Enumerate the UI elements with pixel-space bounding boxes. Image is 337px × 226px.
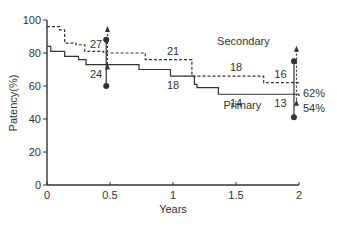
at-risk-count: 24 [90, 68, 102, 80]
at-risk-count: 21 [167, 45, 179, 57]
chart-canvas: 00.511.52020406080100 2721181662%2418141… [0, 0, 337, 226]
series-annotation: Secondary [217, 35, 270, 47]
dot-icon [291, 58, 297, 64]
series-annotation: Primary [223, 99, 261, 111]
chart-labels: 2721181662%2418141354%SecondaryPrimary [90, 35, 325, 114]
y-tick-label: 80 [29, 47, 41, 59]
arrow-up-icon [105, 26, 110, 32]
y-axis-label: Patency(%) [7, 75, 19, 132]
end-percentage-label: 62% [303, 87, 325, 99]
arrow-up-icon [294, 100, 299, 106]
x-axis-label: Years [159, 203, 187, 215]
dot-icon [103, 37, 109, 43]
y-tick-label: 40 [29, 113, 41, 125]
dot-icon [103, 83, 109, 89]
x-tick-label: 0 [44, 189, 50, 201]
end-percentage-label: 54% [303, 102, 325, 114]
y-tick-label: 0 [35, 179, 41, 191]
y-tick-label: 60 [29, 80, 41, 92]
x-tick-label: 0.5 [102, 189, 117, 201]
at-risk-count: 16 [274, 68, 286, 80]
x-tick-label: 1.5 [228, 189, 243, 201]
patency-chart: 00.511.52020406080100 2721181662%2418141… [0, 0, 337, 226]
y-tick-label: 100 [23, 14, 41, 26]
at-risk-count: 18 [230, 61, 242, 73]
arrow-up-icon [294, 46, 299, 52]
at-risk-count: 27 [90, 38, 102, 50]
y-tick-label: 20 [29, 146, 41, 158]
at-risk-count: 18 [167, 79, 179, 91]
x-tick-label: 2 [296, 189, 302, 201]
dot-icon [291, 114, 297, 120]
x-tick-label: 1 [170, 189, 176, 201]
at-risk-count: 13 [274, 97, 286, 109]
